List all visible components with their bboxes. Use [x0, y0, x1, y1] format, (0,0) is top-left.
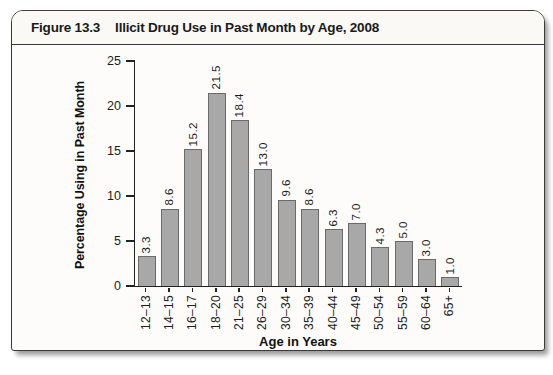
- x-tick-mark: [449, 288, 451, 292]
- bar-value-label: 18.4: [234, 93, 246, 117]
- x-tick-mark: [425, 288, 427, 292]
- x-tick-group: 35–39: [298, 288, 321, 330]
- bar: [395, 241, 413, 286]
- y-tick-label: 10: [85, 190, 121, 203]
- bar-value-label: 13.0: [258, 142, 270, 166]
- bar: [278, 200, 296, 286]
- x-tick-group: 55–59: [391, 288, 414, 330]
- bar-group: 3.0: [415, 61, 438, 286]
- y-tick-label: 25: [85, 55, 121, 68]
- x-tick-mark: [402, 288, 404, 292]
- bar-value-label: 3.3: [141, 236, 153, 254]
- x-tick-mark: [332, 288, 334, 292]
- figure-frame: Figure 13.3 Illicit Drug Use in Past Mon…: [11, 10, 545, 351]
- x-tick-group: 30–34: [274, 288, 297, 330]
- x-tick-group: 45–49: [344, 288, 367, 330]
- y-tick-label: 20: [85, 100, 121, 113]
- bar-value-label: 5.0: [398, 221, 410, 239]
- bar-value-label: 15.2: [188, 122, 200, 146]
- figure-number: Figure 13.3: [31, 20, 100, 35]
- bar: [441, 277, 459, 286]
- bar-group: 9.6: [275, 61, 298, 286]
- bar-value-label: 6.3: [328, 209, 340, 227]
- y-tick-mark: [126, 285, 135, 287]
- x-tick-label: 18–20: [210, 295, 222, 330]
- bar: [184, 149, 202, 286]
- x-axis-labels: 12–1314–1516–1718–2021–2526–2930–3435–39…: [134, 288, 461, 330]
- bar-group: 5.0: [392, 61, 415, 286]
- x-tick-label: 45–49: [350, 295, 362, 330]
- x-tick-mark: [145, 288, 147, 292]
- bar-value-label: 1.0: [445, 257, 457, 275]
- x-tick-group: 40–44: [321, 288, 344, 330]
- x-tick-group: 14–15: [157, 288, 180, 330]
- bar-value-label: 7.0: [351, 203, 363, 221]
- x-tick-group: 65+: [438, 288, 461, 330]
- bar: [208, 93, 226, 287]
- bar-group: 13.0: [252, 61, 275, 286]
- bar-group: 15.2: [182, 61, 205, 286]
- x-tick-mark: [238, 288, 240, 292]
- x-tick-label: 65+: [443, 295, 455, 316]
- bar: [138, 256, 156, 286]
- bar-group: 1.0: [439, 61, 462, 286]
- x-tick-mark: [379, 288, 381, 292]
- page: Figure 13.3 Illicit Drug Use in Past Mon…: [0, 0, 553, 375]
- bar-value-label: 21.5: [211, 65, 223, 89]
- x-tick-mark: [192, 288, 194, 292]
- chart-body: Percentage Using in Past Month 3.38.615.…: [12, 45, 544, 349]
- bar-group: 6.3: [322, 61, 345, 286]
- bar-value-label: 9.6: [281, 179, 293, 197]
- x-tick-group: 50–54: [368, 288, 391, 330]
- x-tick-label: 35–39: [303, 295, 315, 330]
- x-tick-group: 12–13: [134, 288, 157, 330]
- bar-group: 8.6: [299, 61, 322, 286]
- x-axis-title: Age in Years: [259, 334, 337, 349]
- bar: [371, 247, 389, 286]
- y-tick-label: 15: [85, 145, 121, 158]
- x-tick-mark: [355, 288, 357, 292]
- x-tick-group: 16–17: [181, 288, 204, 330]
- x-tick-label: 40–44: [327, 295, 339, 330]
- x-tick-mark: [215, 288, 217, 292]
- x-tick-label: 26–29: [256, 295, 268, 330]
- x-tick-label: 30–34: [280, 295, 292, 330]
- bar: [418, 259, 436, 286]
- bar: [301, 209, 319, 286]
- bar-value-label: 3.0: [421, 239, 433, 257]
- bar: [348, 223, 366, 286]
- y-tick-label: 0: [85, 280, 121, 293]
- figure-header: Figure 13.3 Illicit Drug Use in Past Mon…: [12, 11, 544, 45]
- y-tick-mark: [126, 240, 135, 242]
- x-tick-mark: [285, 288, 287, 292]
- bar: [231, 120, 249, 286]
- bar-group: 4.3: [369, 61, 392, 286]
- bar-group: 3.3: [135, 61, 158, 286]
- x-tick-mark: [168, 288, 170, 292]
- x-tick-mark: [262, 288, 264, 292]
- bar-group: 8.6: [158, 61, 181, 286]
- y-tick-label: 5: [85, 235, 121, 248]
- y-tick-mark: [126, 105, 135, 107]
- bar-value-label: 8.6: [164, 188, 176, 206]
- bar: [325, 229, 343, 286]
- bar-group: 21.5: [205, 61, 228, 286]
- x-tick-label: 21–25: [233, 295, 245, 330]
- y-tick-mark: [126, 150, 135, 152]
- x-tick-mark: [308, 288, 310, 292]
- x-tick-group: 21–25: [227, 288, 250, 330]
- bar-group: 7.0: [345, 61, 368, 286]
- bar-value-label: 8.6: [304, 188, 316, 206]
- x-tick-label: 50–54: [373, 295, 385, 330]
- y-tick-mark: [126, 195, 135, 197]
- x-tick-group: 26–29: [251, 288, 274, 330]
- x-tick-group: 60–64: [414, 288, 437, 330]
- y-tick-mark: [126, 60, 135, 62]
- x-tick-label: 55–59: [397, 295, 409, 330]
- x-tick-label: 60–64: [420, 295, 432, 330]
- plot-area: 3.38.615.221.518.413.09.68.66.37.04.35.0…: [134, 61, 462, 287]
- figure-title: Illicit Drug Use in Past Month by Age, 2…: [115, 20, 379, 35]
- x-tick-label: 14–15: [163, 295, 175, 330]
- bar: [254, 169, 272, 286]
- x-tick-label: 16–17: [186, 295, 198, 330]
